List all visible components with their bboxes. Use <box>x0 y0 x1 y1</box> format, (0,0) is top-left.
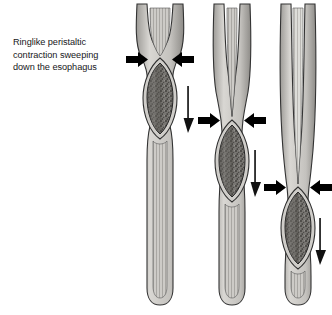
caption-line-2: contraction sweeping <box>13 49 125 62</box>
esophagus-lumen-lower-2 <box>225 204 239 298</box>
esophagus-lumen-lower-3 <box>291 271 305 298</box>
caption-line-3: down the esophagus <box>13 61 125 74</box>
peristalsis-figure: Ringlike peristaltic contraction sweepin… <box>0 0 332 315</box>
caption-text-block: Ringlike peristaltic contraction sweepin… <box>13 36 125 74</box>
caption-line-1: Ringlike peristaltic <box>13 36 125 49</box>
esophagus-lumen-lower-1 <box>153 141 167 298</box>
